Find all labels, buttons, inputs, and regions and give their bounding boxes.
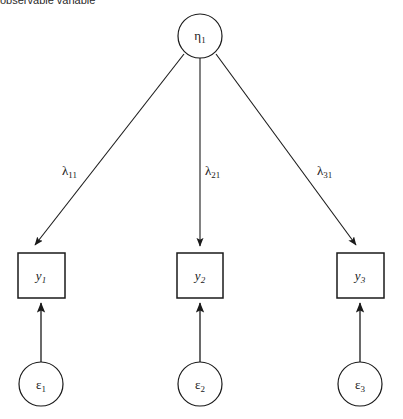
sem-path-diagram bbox=[0, 0, 403, 419]
path-label-lambda21: λ21 bbox=[205, 164, 220, 177]
node-eta1 bbox=[178, 14, 222, 58]
error-paths bbox=[41, 303, 360, 362]
path-label-lambda31: λ31 bbox=[317, 164, 332, 177]
lambda31-subscript: 31 bbox=[323, 170, 332, 180]
lambda11-subscript: 11 bbox=[68, 170, 77, 180]
loading-paths bbox=[35, 54, 356, 246]
path-lambda11 bbox=[35, 54, 184, 245]
path-label-lambda11: λ11 bbox=[62, 164, 77, 177]
node-y1 bbox=[18, 253, 65, 298]
node-epsilon3 bbox=[338, 362, 382, 406]
node-epsilon2 bbox=[178, 362, 222, 406]
lambda21-subscript: 21 bbox=[211, 170, 220, 180]
node-epsilon1 bbox=[19, 362, 63, 406]
node-y2 bbox=[177, 253, 223, 298]
diagram-canvas: observable variable η1 bbox=[0, 0, 403, 419]
path-lambda31 bbox=[216, 54, 356, 245]
node-y3 bbox=[337, 253, 384, 298]
